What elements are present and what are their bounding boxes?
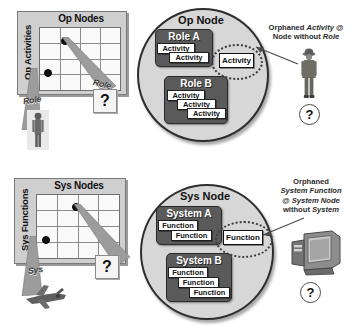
op-matrix-col-axis-label: Op Nodes xyxy=(39,13,123,24)
sys-matrix-question-mark: ? xyxy=(102,258,112,276)
op-annot-l1a: Orphaned xyxy=(269,23,307,32)
sys-annotation-line-4: without System xyxy=(264,205,358,214)
sys-annotation-text: Orphaned System Function @ System Node w… xyxy=(264,177,358,214)
op-orphan-activity[interactable]: Activity xyxy=(219,53,254,68)
aircraft-figure xyxy=(22,283,68,313)
soldier-icon xyxy=(296,46,322,102)
sys-group-system-a-label: System A xyxy=(157,208,221,219)
sys-annotation-line-1: Orphaned xyxy=(264,177,358,186)
op-annot-l2a: Node without xyxy=(273,32,323,41)
sys-system-b-function-3[interactable]: Function xyxy=(189,287,230,298)
sys-annotation-question-mark: ? xyxy=(307,286,315,299)
op-group-role-a-label: Role A xyxy=(156,31,212,42)
op-annotation-question-circle[interactable]: ? xyxy=(299,104,320,125)
op-annotation-leader-line xyxy=(250,44,300,66)
sys-beam-left-label: Sys xyxy=(27,264,43,276)
op-matrix-question-mark: ? xyxy=(100,92,110,110)
soldier-figure-left xyxy=(27,110,49,150)
diagram-canvas: Op Activities Op Nodes Role Role ? xyxy=(0,0,358,325)
sys-annotation-line-3: @ System Node xyxy=(264,196,358,205)
op-annotation-question-mark: ? xyxy=(306,108,314,121)
sys-matrix-question-box[interactable]: ? xyxy=(95,255,119,279)
op-role-b-activity-3[interactable]: Activity xyxy=(187,108,226,119)
op-annot-l1-em: Activity xyxy=(307,23,334,32)
sys-annot-l4-em: System xyxy=(312,205,339,214)
sys-matrix-col-axis-label: Sys Nodes xyxy=(36,180,122,191)
sys-annotation-line-2: System Function xyxy=(264,186,358,195)
op-annotation-line-2: Node without Role xyxy=(256,32,356,41)
sys-annot-l3a: @ xyxy=(282,196,292,205)
op-group-role-b-label: Role B xyxy=(165,78,227,89)
workstation-icon xyxy=(288,230,344,276)
op-annot-l1b: @ xyxy=(334,23,344,32)
op-annotation-text: Orphaned Activity @ Node without Role xyxy=(256,23,356,42)
op-annotation-line-1: Orphaned Activity @ xyxy=(256,23,356,32)
sys-group-system-b-label: System B xyxy=(167,255,231,266)
op-node-title: Op Node xyxy=(137,14,265,26)
op-annot-l2-em: Role xyxy=(323,32,339,41)
sys-annot-l2-em: System Function xyxy=(280,186,341,195)
sys-orphan-function[interactable]: Function xyxy=(223,230,263,245)
sys-node-title: Sys Node xyxy=(140,190,270,202)
op-matrix-question-box[interactable]: ? xyxy=(93,89,117,113)
op-role-a-activity-2[interactable]: Activity xyxy=(169,52,209,63)
sys-annot-l4a: without xyxy=(283,205,312,214)
sys-annot-l3-em: System Node xyxy=(292,196,340,205)
sys-annotation-question-circle[interactable]: ? xyxy=(300,282,321,303)
sys-system-a-function-2[interactable]: Function xyxy=(171,230,212,241)
